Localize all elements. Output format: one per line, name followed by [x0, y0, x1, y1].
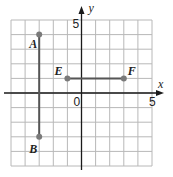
y-axis-label: y [88, 1, 95, 15]
point-F [121, 75, 127, 81]
y-tick-label-5: 5 [73, 17, 80, 31]
coordinate-plane: xy055ABEF [0, 0, 173, 177]
y-axis-arrow-icon [79, 6, 85, 14]
point-label-A: A [28, 37, 37, 51]
point-E [64, 75, 70, 81]
point-label-B: B [28, 142, 37, 156]
origin-label: 0 [74, 95, 81, 109]
point-B [36, 134, 42, 140]
point-label-E: E [53, 64, 62, 78]
x-axis-label: x [157, 77, 164, 91]
point-label-F: F [127, 64, 136, 78]
x-tick-label-5: 5 [149, 95, 156, 109]
